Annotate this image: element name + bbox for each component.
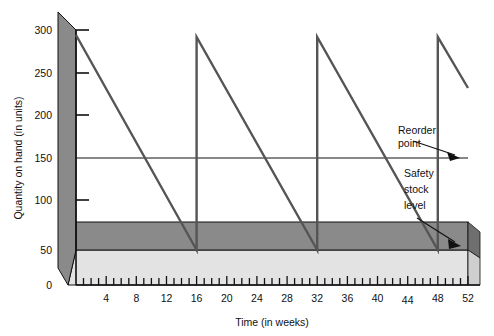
safety-stock-band xyxy=(76,222,468,250)
inventory-sawtooth-chart: 300 250 200 150 100 50 0 Quantity on han… xyxy=(0,0,494,336)
y-tick-50: 50 xyxy=(40,244,52,256)
x-tick-40: 40 xyxy=(372,292,384,304)
x-tick-52: 52 xyxy=(462,292,474,304)
y-axis-title: Quantity on hand (in units) xyxy=(12,96,24,219)
x-tick-32: 32 xyxy=(311,292,323,304)
chart-container: 300 250 200 150 100 50 0 Quantity on han… xyxy=(0,0,494,336)
x-tick-44: 44 xyxy=(402,294,414,306)
x-tick-48: 48 xyxy=(432,292,444,304)
left-wall-slab xyxy=(58,12,76,285)
reorder-point-label-line1: Reorder xyxy=(398,124,436,136)
y-tick-200: 200 xyxy=(34,109,52,121)
y-tick-300: 300 xyxy=(34,24,52,36)
x-tick-8: 8 xyxy=(133,292,139,304)
safety-stock-label-line1: Safety xyxy=(404,167,435,179)
x-tick-12: 12 xyxy=(161,292,173,304)
safety-stock-label-line3: level xyxy=(404,199,426,211)
x-axis-title: Time (in weeks) xyxy=(235,316,309,328)
safety-stock-label-line2: stock xyxy=(404,183,429,195)
y-tick-150: 150 xyxy=(34,152,52,164)
y-tick-100: 100 xyxy=(34,194,52,206)
x-tick-4: 4 xyxy=(103,292,109,304)
y-tick-0: 0 xyxy=(46,279,52,291)
x-tick-24: 24 xyxy=(251,292,263,304)
y-tick-250: 250 xyxy=(34,67,52,79)
x-tick-20: 20 xyxy=(221,292,233,304)
x-tick-36: 36 xyxy=(342,292,354,304)
x-tick-16: 16 xyxy=(191,292,203,304)
x-tick-28: 28 xyxy=(281,292,293,304)
